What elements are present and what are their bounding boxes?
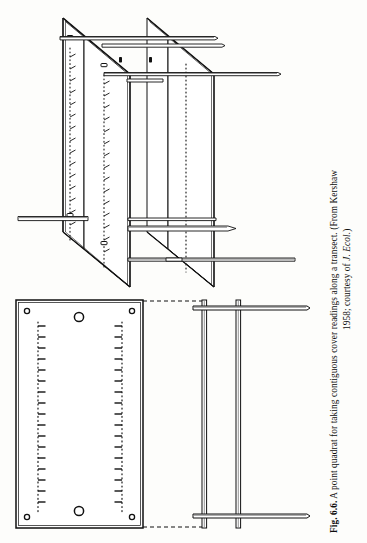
sighting-pin bbox=[127, 79, 163, 82]
figure-caption-text: A point quadrat for taking contiguous co… bbox=[329, 170, 339, 499]
sighting-pin bbox=[104, 73, 281, 76]
edge-view-cross-pin-top bbox=[193, 306, 310, 310]
sighting-pin bbox=[128, 218, 216, 221]
sighting-pin bbox=[102, 44, 225, 47]
figure-caption: Fig. 6.6. A point quadrat for taking con… bbox=[311, 0, 367, 543]
edge-view-leg-right bbox=[236, 300, 241, 528]
figure-caption-line-2: 1958; courtesy of J. Ecol.) bbox=[342, 0, 352, 330]
sighting-pin-pointed bbox=[128, 226, 236, 231]
edge-view-leg-left bbox=[202, 300, 207, 528]
sighting-pin bbox=[60, 37, 218, 40]
figure-caption-closing: ) bbox=[342, 229, 352, 232]
sighting-pin bbox=[166, 258, 182, 261]
plate-outline bbox=[16, 300, 143, 528]
point-quadrat-figure-illustration bbox=[0, 0, 320, 543]
sighting-pin bbox=[18, 217, 88, 221]
point-quadrat-plate-face-view bbox=[16, 300, 143, 528]
figure-number: Fig. 6.6. bbox=[329, 501, 339, 533]
point-quadrat-perspective-view bbox=[18, 18, 295, 287]
point-quadrat-edge-view bbox=[143, 300, 310, 528]
figure-page: Fig. 6.6. A point quadrat for taking con… bbox=[0, 0, 367, 543]
sighting-pin bbox=[128, 258, 295, 261]
figure-caption-source: 1958; courtesy of bbox=[342, 261, 352, 330]
figure-caption-line-1: Fig. 6.6. A point quadrat for taking con… bbox=[329, 13, 339, 533]
figure-caption-journal: J. Ecol. bbox=[342, 232, 352, 261]
edge-view-cross-pin-bottom bbox=[193, 514, 310, 518]
rear-upright-plate bbox=[147, 18, 214, 287]
